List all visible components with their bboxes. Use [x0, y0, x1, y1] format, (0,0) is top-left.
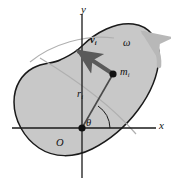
- mass-particle-label: mi: [120, 67, 130, 78]
- angular-velocity-label: ω: [123, 38, 130, 49]
- y-axis-label: y: [81, 4, 86, 15]
- mass-particle-dot: [109, 70, 116, 77]
- velocity-subscript: i: [95, 39, 97, 46]
- mass-subscript: i: [128, 71, 130, 78]
- radius-subscript: i: [81, 93, 83, 100]
- velocity-symbol: v: [90, 34, 95, 45]
- origin-dot: [78, 124, 85, 131]
- origin-label: O: [56, 138, 64, 149]
- angle-label: θ: [86, 118, 91, 129]
- x-axis-label: x: [159, 120, 164, 131]
- mass-symbol: m: [120, 66, 128, 77]
- velocity-vector-label: vi: [90, 35, 97, 46]
- radius-label: ri: [77, 89, 83, 100]
- mechanics-figure: y x vi ω mi ri θ O: [0, 0, 171, 182]
- figure-canvas: [0, 0, 171, 182]
